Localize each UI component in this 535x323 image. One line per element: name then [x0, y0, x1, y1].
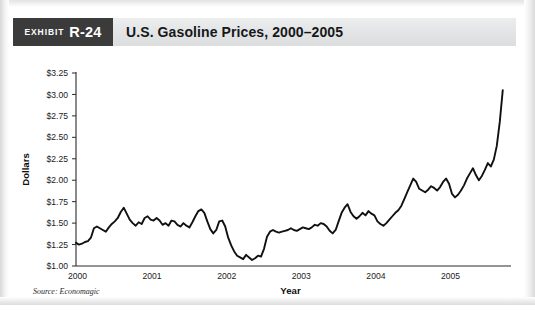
- scan-edge-right: [524, 0, 535, 305]
- scan-edge-top: [0, 0, 535, 7]
- scan-edge-left: [0, 0, 9, 305]
- exhibit-kicker-label: EXHIBIT: [24, 27, 64, 37]
- y-axis-tick-label: $2.00: [46, 175, 68, 185]
- y-axis-tick-label: $1.00: [46, 261, 68, 271]
- y-axis-tick-label: $1.25: [46, 240, 68, 250]
- source-note: Source: Economagic: [33, 287, 100, 296]
- y-axis-tick-label: $1.75: [46, 197, 68, 207]
- y-axis-tick-label: $3.25: [46, 68, 68, 78]
- exhibit-header-bar: EXHIBIT R-24 U.S. Gasoline Prices, 2000–…: [13, 18, 516, 46]
- y-axis-tick-label: $2.25: [46, 154, 68, 164]
- exhibit-badge: EXHIBIT R-24: [13, 18, 113, 46]
- x-axis-tick-label: 2002: [217, 271, 236, 281]
- exhibit-title: U.S. Gasoline Prices, 2000–2005: [126, 18, 343, 46]
- y-axis-title: Dollars: [20, 153, 31, 186]
- x-axis-tick-label: 2005: [441, 271, 460, 281]
- y-axis-tick-label: $1.50: [46, 218, 68, 228]
- x-axis-tick-label: 2001: [143, 271, 162, 281]
- line-chart: $1.00$1.25$1.50$1.75$2.00$2.25$2.50$2.75…: [13, 52, 516, 300]
- x-axis-tick-label: 2003: [292, 271, 311, 281]
- exhibit-number-label: R-24: [69, 24, 101, 40]
- chart-container: $1.00$1.25$1.50$1.75$2.00$2.25$2.50$2.75…: [13, 52, 516, 300]
- y-axis-tick-label: $2.75: [46, 111, 68, 121]
- x-axis-tick-label: 2000: [68, 271, 87, 281]
- exhibit-card: EXHIBIT R-24 U.S. Gasoline Prices, 2000–…: [0, 0, 535, 305]
- y-axis-tick-label: $2.50: [46, 132, 68, 142]
- x-axis-tick-label: 2004: [366, 271, 385, 281]
- x-axis-title: Year: [280, 285, 301, 296]
- y-axis-tick-label: $3.00: [46, 90, 68, 100]
- next-exhibit-strip: [0, 305, 535, 323]
- data-line-series: [76, 90, 503, 260]
